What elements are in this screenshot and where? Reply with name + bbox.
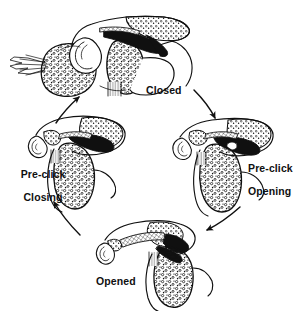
- stage-label-pre-click-opening-line1: Pre-click: [248, 162, 293, 174]
- stage-label-pre-click-opening: Pre-click Opening: [236, 151, 293, 209]
- stage-label-pre-click-closing: Pre-click Closing: [6, 157, 68, 215]
- stage-label-pre-click-closing-line1: Pre-click: [21, 168, 66, 180]
- figure-canvas: Closed Pre-click Opening Pre-click Closi…: [0, 0, 303, 311]
- stage-label-pre-click-closing-line2: Closing: [23, 191, 62, 203]
- stage-label-opened: Opened: [96, 276, 136, 288]
- stage-label-closed: Closed: [146, 85, 182, 97]
- stage-label-pre-click-opening-line2: Opening: [248, 185, 291, 197]
